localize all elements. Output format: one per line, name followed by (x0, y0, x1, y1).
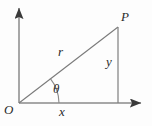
label-point-p: P (121, 10, 129, 23)
label-angle-theta: θ (53, 82, 59, 95)
label-horizontal-leg-x: x (59, 105, 65, 118)
label-vertical-leg-y: y (106, 55, 112, 68)
radius-vector-line (19, 27, 118, 103)
label-origin-o: O (4, 103, 13, 116)
polar-coordinate-diagram: P r y x O θ (0, 0, 152, 126)
label-radius-r: r (58, 45, 63, 58)
diagram-canvas (0, 0, 152, 126)
